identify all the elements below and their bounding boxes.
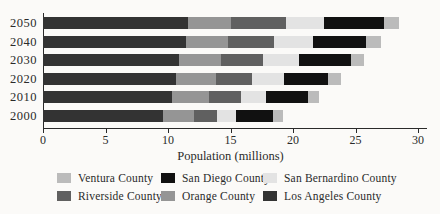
bar-segment-riverside-county xyxy=(231,17,286,29)
legend-swatch-san-bernardino-county xyxy=(263,173,277,183)
bar-segment-orange-county xyxy=(163,110,194,122)
legend-label: San Bernardino County xyxy=(284,172,397,184)
x-axis-line xyxy=(43,128,427,129)
bar-track-2040 xyxy=(43,36,381,48)
x-tick-label: 5 xyxy=(103,133,109,148)
bar-segment-riverside-county xyxy=(221,54,264,66)
bar-segment-orange-county xyxy=(188,17,231,29)
x-tick-label: 25 xyxy=(350,133,362,148)
bar-segment-san-diego-county xyxy=(324,17,384,29)
bar-row-2000: 2000 xyxy=(0,110,283,122)
bar-segment-ventura-county xyxy=(351,54,365,66)
year-label: 2020 xyxy=(0,73,37,85)
legend-swatch-san-diego-county xyxy=(161,173,175,183)
x-tick-label: 15 xyxy=(225,133,237,148)
bar-segment-riverside-county xyxy=(194,110,217,122)
bar-segment-san-bernardino-county xyxy=(217,110,236,122)
bar-track-2020 xyxy=(43,73,341,85)
year-label: 2000 xyxy=(0,110,37,122)
bar-row-2030: 2030 xyxy=(0,54,364,66)
legend-swatch-los-angeles-county xyxy=(263,191,277,201)
bar-segment-ventura-county xyxy=(384,17,399,29)
legend-item-san-bernardino-county: San Bernardino County xyxy=(263,170,397,185)
year-label: 2040 xyxy=(0,36,37,48)
legend-item-san-diego-county: San Diego County xyxy=(161,170,263,185)
legend-label: San Diego County xyxy=(182,172,270,184)
legend-item-ventura-county: Ventura County xyxy=(57,170,161,185)
bar-segment-riverside-county xyxy=(209,91,240,103)
bar-row-2010: 2010 xyxy=(0,91,319,103)
legend: Ventura CountySan Diego CountySan Bernar… xyxy=(57,170,397,203)
bar-segment-orange-county xyxy=(172,91,210,103)
bar-segment-san-bernardino-county xyxy=(241,91,266,103)
bar-row-2040: 2040 xyxy=(0,36,381,48)
bar-segment-san-diego-county xyxy=(313,36,366,48)
x-tick-label: 0 xyxy=(40,133,46,148)
legend-label: Riverside County xyxy=(78,190,162,202)
bar-track-2010 xyxy=(43,91,319,103)
bar-track-2030 xyxy=(43,54,364,66)
bar-segment-riverside-county xyxy=(228,36,274,48)
bar-row-2050: 2050 xyxy=(0,17,399,29)
legend-item-los-angeles-county: Los Angeles County xyxy=(263,188,397,203)
bar-segment-los-angeles-county xyxy=(43,36,186,48)
bar-segment-orange-county xyxy=(186,36,229,48)
bar-segment-san-diego-county xyxy=(266,91,309,103)
year-label: 2010 xyxy=(0,91,37,103)
legend-label: Los Angeles County xyxy=(284,190,382,202)
legend-swatch-ventura-county xyxy=(57,173,71,183)
x-tick-label: 30 xyxy=(412,133,424,148)
bar-segment-ventura-county xyxy=(308,91,319,103)
legend-item-riverside-county: Riverside County xyxy=(57,188,161,203)
legend-swatch-riverside-county xyxy=(57,191,71,201)
x-axis-title: Population (millions) xyxy=(43,149,418,164)
bar-segment-ventura-county xyxy=(328,73,341,85)
legend-item-orange-county: Orange County xyxy=(161,188,263,203)
bar-segment-orange-county xyxy=(176,73,216,85)
year-label: 2030 xyxy=(0,54,37,66)
bar-segment-san-diego-county xyxy=(299,54,350,66)
bar-segment-ventura-county xyxy=(273,110,283,122)
bar-segment-los-angeles-county xyxy=(43,54,179,66)
bar-track-2050 xyxy=(43,17,399,29)
bar-segment-san-bernardino-county xyxy=(286,17,325,29)
bar-segment-los-angeles-county xyxy=(43,17,188,29)
bar-track-2000 xyxy=(43,110,283,122)
bar-segment-san-bernardino-county xyxy=(252,73,285,85)
bar-segment-los-angeles-county xyxy=(43,73,176,85)
legend-swatch-orange-county xyxy=(161,191,175,201)
bar-segment-ventura-county xyxy=(366,36,381,48)
x-tick-label: 20 xyxy=(287,133,299,148)
bar-segment-riverside-county xyxy=(216,73,252,85)
bar-segment-los-angeles-county xyxy=(43,91,172,103)
year-label: 2050 xyxy=(0,17,37,29)
x-tick-label: 10 xyxy=(162,133,174,148)
legend-label: Ventura County xyxy=(78,172,153,184)
bar-segment-orange-county xyxy=(179,54,220,66)
bar-segment-san-bernardino-county xyxy=(263,54,299,66)
bar-segment-los-angeles-county xyxy=(43,110,163,122)
legend-label: Orange County xyxy=(182,190,255,202)
bar-segment-san-diego-county xyxy=(236,110,274,122)
bar-segment-san-diego-county xyxy=(284,73,328,85)
bar-row-2020: 2020 xyxy=(0,73,341,85)
bar-segment-san-bernardino-county xyxy=(274,36,313,48)
stacked-bar-chart: 205020402030202020102000 051015202530 Po… xyxy=(0,0,440,214)
